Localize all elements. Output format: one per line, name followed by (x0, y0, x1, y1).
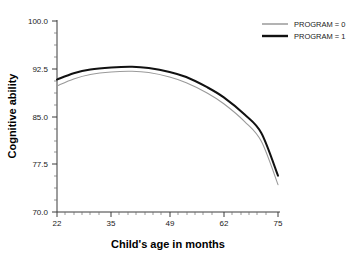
y-tick-label-77-5: 77.5 (32, 160, 48, 169)
y-tick-label-92-5: 92.5 (32, 65, 48, 74)
y-tick-label-85: 85.0 (32, 113, 48, 122)
legend-label-program-1: PROGRAM = 1 (294, 32, 345, 41)
x-tick-label-35: 35 (107, 219, 116, 228)
y-tick-label-70: 70.0 (32, 208, 48, 217)
x-axis-title: Child's age in months (111, 238, 225, 250)
x-tick-label-22: 22 (53, 219, 62, 228)
y-tick-label-100: 100.0 (28, 17, 49, 26)
x-tick-label-62: 62 (220, 219, 229, 228)
x-tick-label-75: 75 (274, 219, 283, 228)
x-tick-label-49: 49 (166, 219, 175, 228)
line-chart-canvas: 100.0 92.5 85.0 77.5 70.0 Cognitive abil… (0, 0, 352, 259)
chart-figure: 100.0 92.5 85.0 77.5 70.0 Cognitive abil… (0, 0, 352, 259)
y-axis-title: Cognitive ability (6, 73, 18, 159)
legend-label-program-0: PROGRAM = 0 (294, 20, 345, 29)
